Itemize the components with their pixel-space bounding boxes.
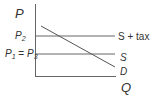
p2-sub: 2 bbox=[21, 35, 26, 42]
d-line bbox=[41, 26, 115, 67]
eq-sign: = bbox=[16, 48, 27, 59]
s-plus-tax-label: S + tax bbox=[118, 31, 149, 42]
p3-sub: 3 bbox=[34, 53, 38, 60]
s-label: S bbox=[120, 52, 127, 63]
p1-p3-label: P1 = P3 bbox=[5, 48, 38, 60]
d-label: D bbox=[120, 66, 127, 77]
y-axis-label: P bbox=[15, 6, 24, 21]
x-axis-label: Q bbox=[121, 80, 131, 95]
supply-demand-diagram: P Q P2 P1 = P3 S + tax S D bbox=[0, 0, 161, 95]
p2-label: P2 bbox=[15, 30, 26, 42]
